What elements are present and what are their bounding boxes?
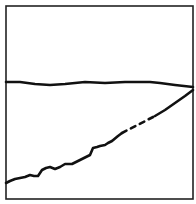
series-layer — [6, 82, 193, 183]
upper-line — [6, 82, 193, 87]
line-chart — [0, 0, 196, 204]
lower-line-dashed — [122, 116, 155, 133]
chart-frame — [6, 6, 193, 199]
lower-line-solid-end — [155, 90, 193, 116]
lower-line-solid-start — [6, 133, 122, 183]
